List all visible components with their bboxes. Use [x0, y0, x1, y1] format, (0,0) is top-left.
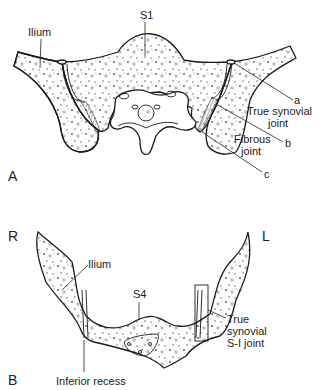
label-true-synovial-si-joint-3: S-I joint: [227, 337, 264, 349]
panel-label-a: A: [8, 168, 18, 184]
label-c: c: [264, 168, 270, 180]
label-true-synovial-si-joint-1: True: [227, 313, 249, 325]
label-fibrous-joint-1: Fibrous: [234, 133, 271, 145]
label-l: L: [262, 228, 270, 244]
panel-label-b: B: [8, 372, 17, 388]
panel-a: S1 Ilium a True synovial joint b Fibrous…: [8, 9, 312, 184]
pelvis-cross-section-b: [37, 232, 250, 368]
label-b: b: [285, 137, 291, 149]
label-true-synovial-joint-a-1: True synovial: [247, 105, 312, 117]
vertebral-arch: [110, 90, 196, 154]
label-true-synovial-si-joint-2: synovial: [227, 325, 267, 337]
label-s1: S1: [140, 9, 153, 21]
label-ilium-b: Ilium: [88, 258, 111, 270]
panel-b: R L Ilium S4 True synovial S-I joint Inf…: [8, 228, 270, 388]
label-true-synovial-joint-a-2: joint: [267, 117, 288, 129]
sacroiliac-joint-diagram: S1 Ilium a True synovial joint b Fibrous…: [0, 0, 320, 390]
label-fibrous-joint-2: joint: [240, 145, 261, 157]
label-ilium-a: Ilium: [28, 26, 51, 38]
label-r: R: [8, 228, 18, 244]
label-s4: S4: [133, 288, 146, 300]
label-inferior-recess: Inferior recess: [56, 375, 126, 387]
